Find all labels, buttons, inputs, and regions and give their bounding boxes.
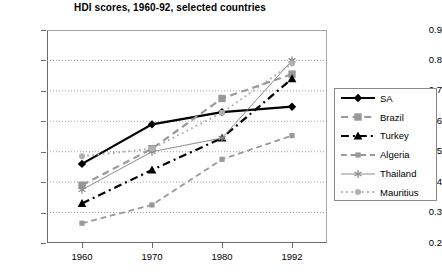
x-axis-tick-label: 1970 <box>122 251 182 262</box>
data-point-marker <box>149 202 154 207</box>
y-axis-tick-mark <box>41 152 46 153</box>
series-line <box>82 60 292 189</box>
data-point-marker <box>289 60 295 66</box>
y-axis-tick-mark <box>41 182 46 183</box>
legend-line-sample <box>339 167 377 181</box>
x-axis-tick-label: 1992 <box>262 251 322 262</box>
data-point-marker <box>149 146 155 152</box>
data-point-marker <box>355 152 360 157</box>
data-point-marker <box>355 189 361 195</box>
data-point-marker <box>79 221 84 226</box>
data-point-marker <box>79 153 85 159</box>
data-point-marker <box>354 94 362 102</box>
legend-item-label: Thailand <box>380 168 416 179</box>
y-axis-tick-mark <box>41 243 46 244</box>
y-axis-tick-mark <box>41 91 46 92</box>
legend-line-sample <box>339 129 377 143</box>
x-axis-tick-label: 1980 <box>192 251 252 262</box>
legend-item-sa[interactable]: SA <box>335 89 436 108</box>
chart-title: HDI scores, 1960-92, selected countries <box>0 2 340 13</box>
x-axis-tick-mark <box>82 243 83 248</box>
data-point-marker <box>148 166 157 174</box>
plot-svg <box>47 30 327 243</box>
legend-item-label: SA <box>380 93 393 104</box>
x-axis-tick-mark <box>222 243 223 248</box>
data-point-marker <box>218 95 225 102</box>
data-point-marker <box>289 133 294 138</box>
y-axis-tick-label: 0.9 <box>400 24 442 35</box>
series-turkey <box>78 74 297 207</box>
plot-area <box>47 30 327 243</box>
series-line <box>82 136 292 224</box>
chart-legend: SABrazilTurkeyAlgeriaThailandMauritius <box>334 88 437 201</box>
legend-item-algeria[interactable]: Algeria <box>335 145 436 164</box>
chart-container: HDI scores, 1960-92, selected countries … <box>0 0 442 272</box>
legend-line-sample <box>339 110 377 124</box>
y-axis-tick-label: 0.2 <box>400 237 442 248</box>
series-line <box>82 107 292 164</box>
y-axis-tick-mark <box>41 60 46 61</box>
legend-line-sample <box>339 148 377 162</box>
legend-item-label: Mauritius <box>380 187 419 198</box>
series-thailand <box>79 56 296 193</box>
series-line <box>82 79 292 204</box>
series-sa <box>78 102 296 168</box>
y-axis-tick-label: 0.8 <box>400 54 442 65</box>
data-point-marker <box>288 102 296 110</box>
y-axis-tick-label: 0.3 <box>400 206 442 217</box>
data-point-marker <box>219 157 224 162</box>
data-point-marker <box>219 110 225 116</box>
y-axis-tick-mark <box>41 30 46 31</box>
legend-line-sample <box>339 185 377 199</box>
legend-item-label: Turkey <box>380 130 409 141</box>
y-axis-tick-mark <box>41 213 46 214</box>
x-axis-tick-mark <box>152 243 153 248</box>
y-axis-tick-mark <box>41 121 46 122</box>
data-point-marker <box>354 113 361 120</box>
legend-item-label: Algeria <box>380 149 410 160</box>
legend-item-turkey[interactable]: Turkey <box>335 127 436 146</box>
legend-line-sample <box>339 91 377 105</box>
x-axis-tick-mark <box>292 243 293 248</box>
legend-item-brazil[interactable]: Brazil <box>335 108 436 127</box>
legend-item-label: Brazil <box>380 112 404 123</box>
x-axis-tick-label: 1960 <box>52 251 112 262</box>
legend-item-thailand[interactable]: Thailand <box>335 164 436 183</box>
data-point-marker <box>78 160 86 168</box>
legend-item-mauritius[interactable]: Mauritius <box>335 183 436 202</box>
